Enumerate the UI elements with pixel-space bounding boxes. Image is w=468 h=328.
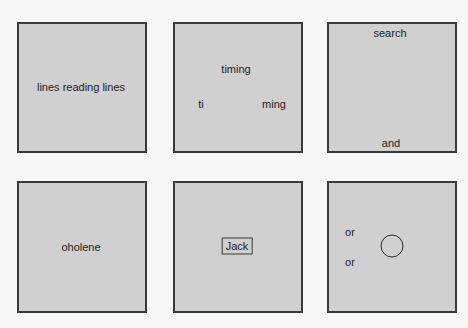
panel-2	[173, 22, 303, 153]
panel-6-label-or-bottom: or	[345, 257, 355, 268]
panel-3-label-and: and	[382, 138, 400, 149]
panel-2-label-timing: timing	[221, 64, 250, 75]
panel-2-label-ti: ti	[198, 99, 204, 110]
panel-1-label-lines-reading-lines: lines reading lines	[37, 82, 125, 93]
panel-6-label-or-top: or	[345, 227, 355, 238]
panel-4-label-oholene: oholene	[61, 242, 100, 253]
panel-3-label-search: search	[373, 28, 406, 39]
panel-6-circle-shape	[381, 235, 404, 258]
panel-3	[327, 22, 457, 153]
panel-5-label-jack-boxed: Jack	[222, 238, 253, 255]
panel-2-label-ming: ming	[262, 99, 286, 110]
